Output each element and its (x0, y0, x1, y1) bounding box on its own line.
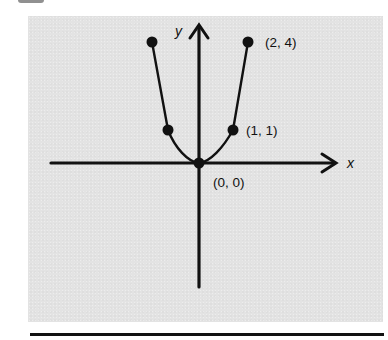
point-2-4 (243, 37, 254, 48)
x-axis-label: x (346, 155, 355, 171)
point-neg1-1 (163, 125, 174, 136)
parabola-graph: x y (2, 4) (1, 1) (0, 0) (0, 0, 388, 340)
point-neg2-4 (147, 37, 158, 48)
label-point-2-4: (2, 4) (265, 35, 297, 50)
label-origin: (0, 0) (213, 175, 245, 190)
y-axis-label: y (174, 23, 183, 39)
point-1-1 (228, 125, 239, 136)
y-axis (190, 25, 208, 287)
bottom-rule (30, 333, 384, 336)
label-point-1-1: (1, 1) (246, 123, 278, 138)
point-origin (194, 158, 205, 169)
